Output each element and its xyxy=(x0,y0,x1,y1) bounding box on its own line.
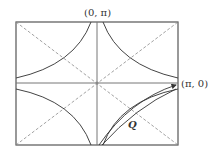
nesting-vector-line-2 xyxy=(102,89,176,145)
gamma-point xyxy=(96,82,99,85)
label-right-point: (π, 0) xyxy=(181,79,208,89)
brillouin-zone-diagram xyxy=(0,0,215,152)
label-vector-q: Q xyxy=(128,120,137,130)
label-top-point: (0, π) xyxy=(84,8,111,18)
